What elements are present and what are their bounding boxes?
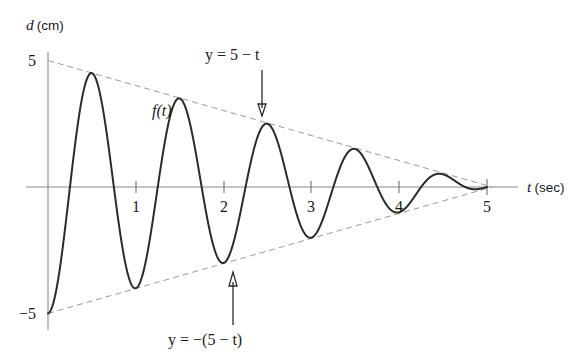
lower-envelope-annotation-text: y = −(5 − t) bbox=[168, 331, 242, 349]
damped-oscillation-chart: 1 2 3 4 5 5 −5 d (cm) t (sec) bbox=[0, 0, 576, 354]
svg-text:t (sec): t (sec) bbox=[527, 178, 564, 195]
x-axis-title: t (sec) bbox=[527, 178, 564, 195]
y-axis-title: d (cm) bbox=[26, 16, 64, 33]
chart-canvas: 1 2 3 4 5 5 −5 d (cm) t (sec) bbox=[0, 0, 576, 354]
y-tick-label-5: 5 bbox=[28, 52, 36, 69]
curve-label-group: f(t) bbox=[152, 102, 172, 120]
lower-annotation-group: y = −(5 − t) bbox=[168, 272, 242, 349]
upper-envelope-annotation-text: y = 5 − t bbox=[205, 46, 260, 64]
lower-envelope-line bbox=[48, 187, 492, 314]
x-tick-label-group: 1 2 3 4 5 bbox=[132, 198, 491, 215]
y-tick-label-minus-5: −5 bbox=[19, 305, 36, 322]
x-axis-unit: (sec) bbox=[534, 180, 564, 195]
f-of-t-curve bbox=[48, 73, 487, 313]
x-tick-label-3: 3 bbox=[307, 198, 315, 215]
svg-text:d (cm): d (cm) bbox=[26, 16, 64, 33]
upper-annotation-group: y = 5 − t bbox=[205, 46, 266, 116]
f-of-t-label: f(t) bbox=[152, 102, 172, 120]
y-axis-unit: (cm) bbox=[37, 18, 64, 33]
x-tick-label-5: 5 bbox=[483, 198, 491, 215]
f-of-t-curve-group bbox=[48, 73, 487, 313]
x-tick-label-1: 1 bbox=[132, 198, 140, 215]
x-tick-label-2: 2 bbox=[220, 198, 228, 215]
upper-envelope-line bbox=[48, 61, 492, 188]
